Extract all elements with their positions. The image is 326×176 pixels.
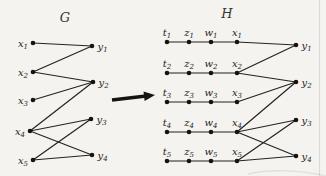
node-H-w2 — [209, 71, 214, 76]
label-H-y4: y4 — [301, 151, 312, 164]
node-H-z5 — [187, 159, 192, 164]
label-G-y4: y4 — [97, 150, 108, 163]
graph-G-title: G — [53, 10, 77, 25]
edge-G-x5-y4 — [33, 155, 92, 160]
edge-G-x1-y1 — [33, 43, 92, 46]
label-H-t1: t1 — [163, 27, 172, 40]
node-H-y4 — [294, 154, 299, 159]
node-H-x5 — [235, 159, 240, 164]
label-H-w1: w1 — [204, 27, 217, 40]
label-H-x1: x1 — [232, 27, 242, 40]
edge-G-x3-y2 — [33, 82, 93, 100]
label-H-x5: x5 — [232, 146, 243, 159]
node-H-w1 — [209, 40, 214, 45]
label-H-z5: z5 — [183, 146, 194, 159]
label-H-y2: y2 — [301, 77, 313, 90]
edge-H-x1-y1 — [237, 42, 296, 45]
label-G-y1: y1 — [97, 41, 108, 54]
edge-H-x5-y4 — [237, 156, 296, 161]
figure-canvas: x1x2x3x4x5y1y2y3y4t1z1w1x1t2z2w2x2t3z3w3… — [0, 0, 326, 176]
node-H-x1 — [235, 40, 240, 45]
label-G-y3: y3 — [96, 114, 108, 127]
node-H-x2 — [235, 71, 240, 76]
node-H-z2 — [187, 71, 192, 76]
edge-G-x2-y1 — [33, 46, 92, 72]
node-H-t3 — [165, 100, 170, 105]
label-H-t2: t2 — [163, 58, 172, 71]
edge-G-x2-y2 — [33, 72, 93, 82]
label-H-t5: t5 — [163, 146, 172, 159]
edge-H-x3-y2 — [237, 82, 296, 102]
node-H-y1 — [294, 43, 299, 48]
node-G-x2 — [31, 70, 36, 75]
node-H-w3 — [209, 100, 214, 105]
label-G-x5: x5 — [18, 155, 29, 168]
label-H-z2: z2 — [183, 58, 194, 71]
label-H-y3: y3 — [301, 115, 313, 128]
label-H-w5: w5 — [204, 146, 218, 159]
node-H-w5 — [209, 159, 214, 164]
label-H-t4: t4 — [163, 117, 172, 130]
node-H-y2 — [294, 80, 299, 85]
edge-G-x4-y4 — [30, 131, 92, 155]
graph-diagram: x1x2x3x4x5y1y2y3y4t1z1w1x1t2z2w2x2t3z3w3… — [0, 0, 326, 176]
arrow-head-icon — [144, 92, 155, 102]
graph-G: x1x2x3x4x5y1y2y3y4 — [15, 38, 109, 168]
label-H-w2: w2 — [204, 58, 218, 71]
label-H-z4: z4 — [183, 117, 194, 130]
node-H-t5 — [165, 159, 170, 164]
node-G-y1 — [90, 44, 95, 49]
edge-H-x4-y2 — [237, 82, 296, 132]
label-G-x2: x2 — [18, 67, 29, 80]
graph-H: t1z1w1x1t2z2w2x2t3z3w3x3t4z4w4x4t5z5w5x5… — [163, 27, 312, 164]
node-H-z1 — [187, 40, 192, 45]
label-G-x1: x1 — [18, 38, 28, 51]
node-G-x1 — [31, 41, 36, 46]
edge-H-x2-y1 — [237, 45, 296, 73]
node-H-x4 — [235, 130, 240, 135]
label-G-y2: y2 — [98, 77, 110, 90]
label-H-x4: x4 — [232, 117, 242, 130]
graph-H-title: H — [215, 6, 239, 21]
label-H-z1: z1 — [183, 27, 194, 40]
node-G-x4 — [28, 129, 33, 134]
node-H-t1 — [165, 40, 170, 45]
node-H-t4 — [165, 130, 170, 135]
transform-arrow — [112, 92, 155, 102]
node-H-t2 — [165, 71, 170, 76]
node-H-w4 — [209, 130, 214, 135]
label-H-x2: x2 — [232, 58, 243, 71]
scan-artifact-curve — [248, 171, 326, 176]
node-H-z4 — [187, 130, 192, 135]
edge-H-x4-y4 — [237, 132, 296, 156]
label-G-x3: x3 — [18, 95, 29, 108]
label-H-x3: x3 — [232, 87, 243, 100]
node-G-x3 — [31, 98, 36, 103]
node-H-x3 — [235, 100, 240, 105]
node-G-y4 — [90, 153, 95, 158]
node-G-y2 — [91, 80, 96, 85]
label-H-w4: w4 — [204, 117, 217, 130]
node-H-z3 — [187, 100, 192, 105]
label-G-x4: x4 — [15, 126, 25, 139]
edge-H-x2-y2 — [237, 73, 296, 82]
node-G-x5 — [31, 158, 36, 163]
node-G-y3 — [89, 117, 94, 122]
arrow-shaft — [112, 96, 146, 100]
label-H-w3: w3 — [204, 87, 218, 100]
node-H-y3 — [294, 118, 299, 123]
label-H-t3: t3 — [163, 87, 172, 100]
label-H-y1: y1 — [301, 40, 312, 53]
label-H-z3: z3 — [183, 87, 194, 100]
